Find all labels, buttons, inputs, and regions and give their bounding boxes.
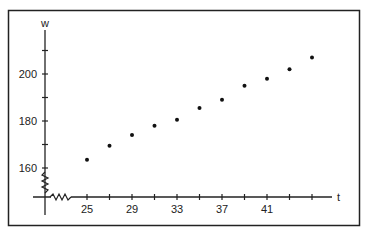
y-tick-label: 180 (19, 115, 37, 127)
data-point (220, 98, 224, 102)
data-point (265, 77, 269, 81)
data-point (85, 158, 89, 162)
y-tick-label: 200 (19, 68, 37, 80)
scatter-chart: 1601802002529333741wt (0, 0, 367, 235)
data-point (243, 84, 247, 88)
x-tick-label: 29 (126, 203, 138, 215)
data-points (85, 56, 314, 162)
data-point (108, 144, 112, 148)
x-tick-label: 33 (171, 203, 183, 215)
x-tick-label: 25 (81, 203, 93, 215)
x-tick-label: 37 (216, 203, 228, 215)
x-tick-label: 41 (261, 203, 273, 215)
data-point (288, 67, 292, 71)
y-axis-label: w (40, 17, 49, 29)
y-tick-label: 160 (19, 162, 37, 174)
data-point (310, 56, 314, 60)
data-point (153, 124, 157, 128)
axes: 1601802002529333741wt (19, 17, 340, 215)
data-point (175, 118, 179, 122)
data-point (130, 133, 134, 137)
data-point (198, 106, 202, 110)
x-axis-label: t (337, 191, 340, 203)
